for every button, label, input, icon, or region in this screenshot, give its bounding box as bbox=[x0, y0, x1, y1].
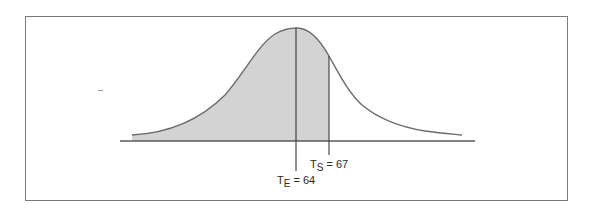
ts-label: TS = 67 bbox=[310, 158, 348, 173]
te-label: TE = 64 bbox=[277, 174, 315, 189]
shaded-area bbox=[132, 28, 329, 141]
